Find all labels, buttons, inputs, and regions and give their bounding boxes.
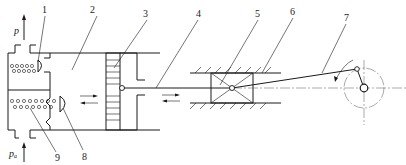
- suction-port: [15, 130, 36, 162]
- discharge-pressure-label: p: [13, 25, 19, 36]
- label-5: 5: [255, 8, 260, 19]
- compressor-diagram: p: [0, 0, 406, 165]
- label-3: 3: [143, 8, 148, 19]
- crank: [334, 60, 384, 125]
- label-1: 1: [42, 4, 47, 15]
- label-2: 2: [90, 4, 95, 15]
- suction-pressure-label: pa: [8, 148, 17, 159]
- flow-arrows-cylinder: [80, 95, 98, 105]
- label-7: 7: [344, 12, 349, 23]
- crosshead-pin: [230, 86, 235, 91]
- leader-lines: [30, 16, 346, 152]
- label-8: 8: [82, 151, 87, 162]
- discharge-valve: [10, 60, 41, 73]
- suction-valve: [10, 96, 65, 112]
- piston: [106, 53, 125, 130]
- connecting-rod: [232, 69, 357, 88]
- label-6: 6: [290, 6, 295, 17]
- label-4: 4: [196, 8, 201, 19]
- motion-arrows-rod: [162, 94, 180, 103]
- label-9: 9: [55, 152, 60, 163]
- cylinder-head: [120, 53, 145, 130]
